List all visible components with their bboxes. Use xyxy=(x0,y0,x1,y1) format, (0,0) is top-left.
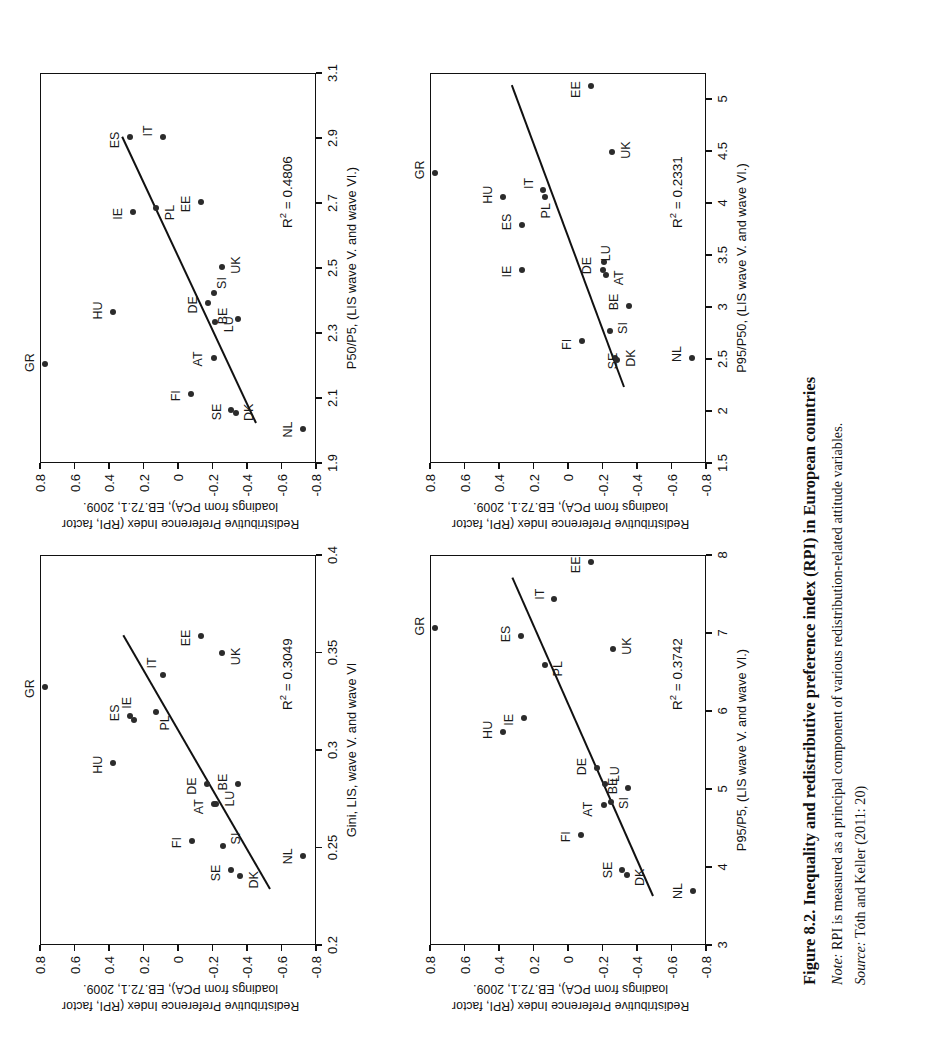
point-label: PL xyxy=(552,661,565,676)
y-tick xyxy=(108,945,109,951)
data-point xyxy=(130,209,136,215)
y-tick-label: -0.4 xyxy=(630,474,645,496)
data-point xyxy=(619,867,625,873)
point-label: DE xyxy=(187,296,200,313)
y-axis-title-line2: loadings from PCA), EB.72.1, 2009. xyxy=(83,982,278,996)
x-tick xyxy=(316,462,322,463)
y-tick-label: -0.8 xyxy=(309,474,324,496)
y-tick-label: 0.6 xyxy=(67,956,82,974)
y-axis-title: Redistributive Preference Index (RPI, fa… xyxy=(56,980,306,1013)
caption-title: Figure 8.2. Inequality and redistributiv… xyxy=(800,37,821,985)
point-label: IT xyxy=(534,589,547,600)
x-tick xyxy=(706,202,712,203)
trend-line xyxy=(122,635,270,889)
plot-area: GRHUESIEPLITEEUKDESIATLUBEFISEDKNLR2 = 0… xyxy=(40,73,316,463)
y-tick xyxy=(39,945,40,951)
point-label: DK xyxy=(625,349,638,366)
x-tick-label: 2.3 xyxy=(325,324,340,342)
data-point xyxy=(153,709,159,715)
data-point xyxy=(198,199,204,205)
data-point xyxy=(110,310,116,316)
y-tick-label: 0 xyxy=(561,474,576,481)
point-label: DE xyxy=(576,758,589,775)
y-tick xyxy=(429,463,430,469)
data-point xyxy=(689,355,695,361)
y-tick xyxy=(567,463,568,469)
data-point xyxy=(127,134,133,140)
point-label: IT xyxy=(146,657,159,668)
y-tick-label: -0.6 xyxy=(274,956,289,978)
data-point xyxy=(42,684,48,690)
note-text: RPI is measured as a principal component… xyxy=(829,423,845,950)
data-point xyxy=(300,853,306,859)
x-tick-label: 0.3 xyxy=(325,741,340,759)
source-text: Tóth and Keller (2011: 20) xyxy=(852,786,868,938)
point-label: SI xyxy=(230,833,243,845)
y-tick-label: 0.8 xyxy=(423,474,438,492)
point-label: DK xyxy=(243,404,256,421)
data-point xyxy=(235,316,241,322)
y-tick xyxy=(429,945,430,951)
x-tick-label: 3 xyxy=(715,941,730,948)
x-tick xyxy=(706,554,712,555)
data-point xyxy=(521,715,527,721)
data-point xyxy=(518,633,524,639)
y-tick-label: 0.4 xyxy=(492,956,507,974)
data-point xyxy=(211,355,217,361)
x-tick-label: 0.25 xyxy=(325,835,340,860)
data-point xyxy=(608,799,614,805)
point-label: IE xyxy=(112,208,125,220)
y-tick xyxy=(281,945,282,951)
data-point xyxy=(233,410,239,416)
point-label: LU xyxy=(599,245,612,261)
x-tick xyxy=(706,150,712,151)
point-label: UK xyxy=(230,256,243,273)
trend-line xyxy=(121,137,256,424)
data-point xyxy=(219,264,225,270)
y-tick-label: 0.4 xyxy=(102,956,117,974)
x-tick xyxy=(706,788,712,789)
x-tick-label: 2.9 xyxy=(325,129,340,147)
y-tick xyxy=(315,463,316,469)
point-label: AT xyxy=(193,799,206,814)
x-tick-label: 3.5 xyxy=(715,246,730,264)
point-label: GR xyxy=(414,161,427,180)
x-tick-label: 3 xyxy=(715,303,730,310)
point-label: FI xyxy=(560,831,573,842)
y-tick-label: 0.6 xyxy=(457,474,472,492)
y-tick xyxy=(498,945,499,951)
figure-caption: Figure 8.2. Inequality and redistributiv… xyxy=(800,37,870,985)
data-point xyxy=(603,272,609,278)
data-point xyxy=(153,206,159,212)
data-point xyxy=(500,729,506,735)
y-tick-label: 0 xyxy=(561,956,576,963)
y-tick-label: -0.2 xyxy=(595,474,610,496)
y-tick-label: 0.8 xyxy=(423,956,438,974)
data-point xyxy=(588,83,594,89)
x-tick xyxy=(316,72,322,73)
data-point xyxy=(500,194,506,200)
y-tick xyxy=(533,945,534,951)
point-label: NL xyxy=(672,883,685,899)
y-tick-label: 0.6 xyxy=(457,956,472,974)
point-label: ES xyxy=(499,626,512,643)
x-tick xyxy=(706,632,712,633)
y-tick-label: 0.4 xyxy=(102,474,117,492)
y-tick-label: 0.8 xyxy=(33,956,48,974)
x-tick xyxy=(316,267,322,268)
data-point xyxy=(540,187,546,193)
x-tick xyxy=(316,332,322,333)
data-point xyxy=(205,300,211,306)
x-tick xyxy=(706,710,712,711)
y-axis-title: Redistributive Preference Index (RPI, fa… xyxy=(446,980,696,1013)
x-tick-label: 3.1 xyxy=(325,64,340,82)
x-tick xyxy=(706,944,712,945)
point-label: AT xyxy=(613,270,626,285)
y-tick-label: -0.4 xyxy=(630,956,645,978)
y-tick xyxy=(74,945,75,951)
y-tick xyxy=(498,463,499,469)
y-tick-label: -0.2 xyxy=(205,474,220,496)
point-label: ES xyxy=(109,132,122,149)
point-label: DE xyxy=(186,777,199,794)
x-tick xyxy=(316,137,322,138)
